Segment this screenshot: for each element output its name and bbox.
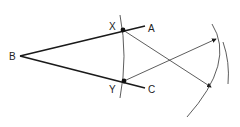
- point-y: [122, 79, 127, 84]
- label-x: X: [109, 21, 116, 32]
- label-b: B: [9, 51, 16, 62]
- diagram: B X A Y C: [0, 0, 240, 127]
- ray-ba: [20, 26, 145, 56]
- label-y: Y: [109, 84, 116, 95]
- arrow-y: [124, 39, 216, 81]
- point-x: [121, 28, 126, 33]
- label-a: A: [148, 23, 155, 34]
- label-c: C: [148, 84, 155, 95]
- arc-from-y: [223, 42, 228, 84]
- arc-from-x: [187, 24, 220, 117]
- ray-bc: [20, 56, 145, 88]
- arrow-x: [123, 30, 211, 87]
- arc-xy: [120, 15, 124, 98]
